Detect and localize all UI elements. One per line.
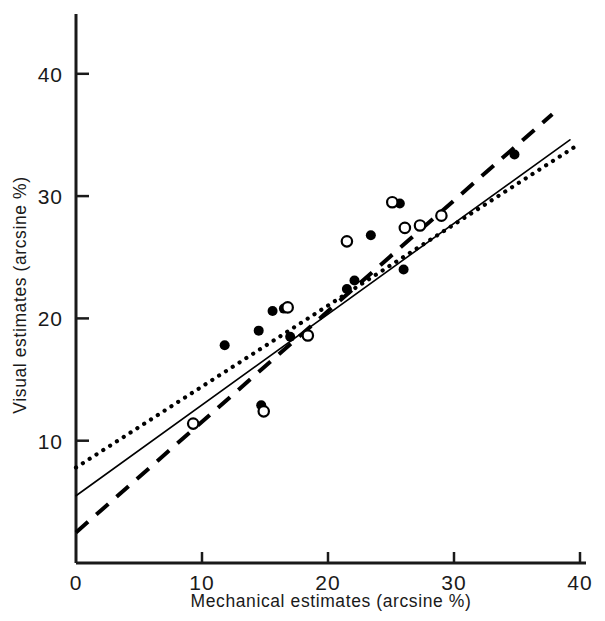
data-point-filled: [220, 340, 230, 350]
data-point-open: [188, 418, 198, 428]
data-point-filled: [268, 306, 278, 316]
data-point-filled: [254, 326, 264, 336]
data-point-open: [303, 330, 313, 340]
x-tick-label: 0: [70, 571, 83, 594]
data-point-open: [415, 220, 425, 230]
x-tick-label: 40: [567, 571, 592, 594]
y-tick-label: 20: [38, 307, 63, 330]
data-point-filled: [366, 230, 376, 240]
data-point-filled: [509, 150, 519, 160]
data-point-open: [436, 210, 446, 220]
y-tick-label: 10: [38, 430, 63, 453]
data-point-filled: [342, 284, 352, 294]
y-tick-label: 40: [38, 63, 63, 86]
y-axis-title: Visual estimates (arcsine %): [10, 176, 30, 413]
data-point-open: [342, 236, 352, 246]
data-point-filled: [399, 264, 409, 274]
scatter-plot: 010203040 10203040 Mechanical estimates …: [0, 0, 605, 621]
y-axis-ticks: [76, 74, 89, 441]
data-point-open: [387, 197, 397, 207]
x-axis-ticks: [202, 552, 580, 563]
figure-container: 010203040 10203040 Mechanical estimates …: [0, 0, 605, 621]
y-tick-label: 30: [38, 185, 63, 208]
regression-lines: [76, 114, 580, 532]
data-point-open: [400, 223, 410, 233]
y-axis-tick-labels: 10203040: [38, 63, 63, 453]
data-point-open: [282, 302, 292, 312]
data-point-filled: [349, 275, 359, 285]
axis-spines: [76, 14, 586, 563]
x-axis-title: Mechanical estimates (arcsine %): [191, 591, 472, 611]
dotted-regression-line: [76, 144, 580, 468]
data-point-filled: [285, 332, 295, 342]
data-point-open: [259, 406, 269, 416]
